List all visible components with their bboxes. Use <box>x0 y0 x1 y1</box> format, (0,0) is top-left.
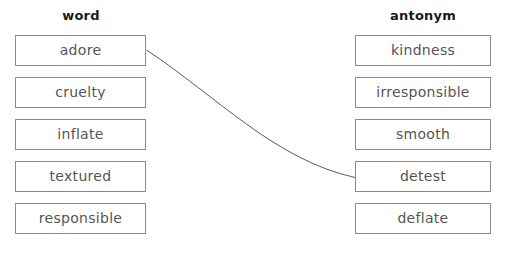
column-header-antonym: antonym <box>355 8 491 24</box>
antonym-option-box[interactable]: deflate <box>355 203 491 234</box>
word-option-box[interactable]: cruelty <box>15 77 146 108</box>
antonym-option-label: deflate <box>397 210 448 227</box>
word-option-box[interactable]: textured <box>15 161 146 192</box>
word-option-label: inflate <box>57 126 103 143</box>
word-option-label: textured <box>50 168 112 185</box>
word-option-label: adore <box>60 42 102 59</box>
word-option-label: responsible <box>39 210 123 227</box>
matching-exercise: word antonym adore cruelty inflate textu… <box>0 0 505 256</box>
antonym-option-box[interactable]: detest <box>355 161 491 192</box>
antonym-option-box[interactable]: smooth <box>355 119 491 150</box>
antonym-option-box[interactable]: irresponsible <box>355 77 491 108</box>
word-option-box[interactable]: inflate <box>15 119 146 150</box>
word-option-label: cruelty <box>55 84 106 101</box>
antonym-option-label: detest <box>400 168 446 185</box>
antonym-option-box[interactable]: kindness <box>355 35 491 66</box>
antonym-option-label: irresponsible <box>376 84 470 101</box>
connector-line-adore-detest <box>147 50 356 178</box>
antonym-option-label: kindness <box>391 42 455 59</box>
antonym-option-label: smooth <box>396 126 450 143</box>
word-option-box[interactable]: responsible <box>15 203 146 234</box>
word-option-box[interactable]: adore <box>15 35 146 66</box>
column-header-word: word <box>16 8 146 24</box>
